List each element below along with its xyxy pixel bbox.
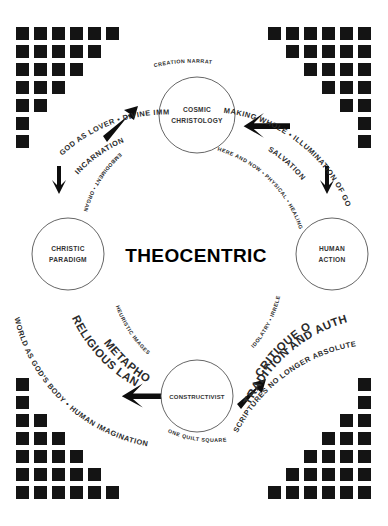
node-cosmic-christology-line1: COSMIC: [183, 106, 211, 113]
arrow-down-left-icon: [52, 166, 66, 194]
arc-label-here-and-now: HERE AND NOW • PHYSICAL • HEALING: [217, 146, 304, 230]
node-human-action[interactable]: HUMAN ACTION: [296, 218, 368, 290]
node-human-action-line1: HUMAN: [319, 245, 345, 252]
corner-pattern-bottom-right: [268, 378, 371, 499]
node-cosmic-christology-line2: CHRISTOLOGY: [171, 117, 223, 124]
arrow-left-bottom-icon: [122, 384, 167, 408]
center-label: THEOCENTRIC: [125, 245, 267, 266]
arc-label-top-left-outer: GOD AS LOVER • DIVINE IMMANENCE: [0, 0, 170, 157]
corner-pattern-bottom-left: [16, 378, 119, 499]
node-constructivist[interactable]: CONSTRUCTIVIST: [161, 360, 233, 432]
theocentric-diagram: COSMIC CHRISTOLOGY CHRISTIC PARADIGM HUM…: [0, 0, 388, 526]
node-cosmic-christology[interactable]: COSMIC CHRISTOLOGY: [159, 77, 235, 153]
node-human-action-line2: ACTION: [318, 256, 345, 263]
node-constructivist-label: CONSTRUCTIVIST: [169, 394, 225, 400]
arc-label-top-right-inner: SALVATION: [267, 145, 308, 182]
arc-label-scriptures-no-longer-absolute: SCRIPTURES NO LONGER ABSOLUTE: [231, 339, 357, 434]
node-christic-paradigm[interactable]: CHRISTIC PARADIGM: [32, 218, 104, 290]
node-christic-paradigm-line2: PARADIGM: [49, 256, 87, 263]
diagram-canvas: COSMIC CHRISTOLOGY CHRISTIC PARADIGM HUM…: [0, 0, 388, 526]
node-christic-paradigm-line1: CHRISTIC: [51, 245, 85, 252]
